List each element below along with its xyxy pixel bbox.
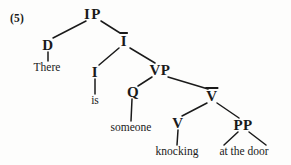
node-i-bar-label: I: [121, 33, 127, 49]
branch-pp-to-atthedoor-right: [249, 132, 266, 145]
syntax-tree-figure: (5) IP D I There I VP is Q V someone V P…: [0, 0, 291, 165]
terminal-at-the-door: at the door: [219, 146, 268, 158]
branch-vbar-to-v: [182, 103, 207, 116]
branch-v-to-knocking: [177, 130, 178, 145]
figure-number: (5): [10, 12, 24, 24]
terminal-someone: someone: [111, 122, 152, 134]
branch-ip-to-d: [53, 21, 86, 38]
node-v-bar: V: [206, 88, 217, 104]
branch-vp-to-q: [138, 77, 152, 86]
node-vp: VP: [150, 63, 171, 78]
branch-pp-to-atthedoor-left: [224, 132, 238, 145]
node-ip: IP: [84, 7, 102, 22]
terminal-there: There: [34, 62, 61, 74]
branch-ibar-to-i: [99, 48, 119, 65]
terminal-is: is: [91, 95, 99, 107]
branch-q-to-someone: [131, 99, 132, 121]
terminal-knocking: knocking: [156, 146, 199, 158]
node-v-bar-label: V: [206, 88, 217, 104]
branch-ip-to-ibar: [101, 21, 120, 33]
tree-branch-lines: [0, 0, 291, 165]
node-i: I: [92, 65, 98, 80]
node-q: Q: [127, 85, 139, 100]
node-d: D: [42, 38, 53, 53]
node-pp: PP: [234, 118, 253, 133]
node-v: V: [172, 116, 183, 131]
branch-vp-to-vbar: [168, 77, 208, 89]
node-i-bar: I: [121, 33, 127, 49]
